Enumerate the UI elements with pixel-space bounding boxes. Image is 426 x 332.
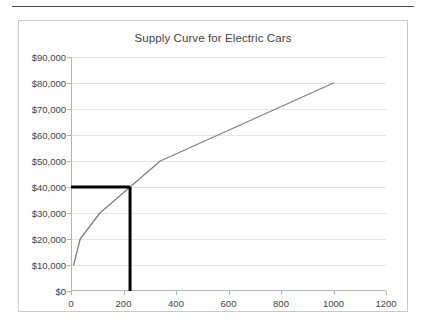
y-axis-tick-label: $90,000 — [32, 52, 66, 63]
y-axis-tick-label: $10,000 — [32, 260, 66, 271]
x-axis-tick-label: 0 — [68, 298, 73, 309]
supply-curve-line — [74, 83, 334, 265]
x-axis-tick-label: 1000 — [323, 298, 344, 309]
x-axis-tick-label: 1200 — [375, 298, 396, 309]
y-axis-tick-label: $30,000 — [32, 208, 66, 219]
x-axis-tick-mark — [124, 291, 125, 295]
y-axis-tick-label: $20,000 — [32, 234, 66, 245]
x-axis-tick-label: 400 — [168, 298, 184, 309]
y-axis-tick-label: $40,000 — [32, 182, 66, 193]
top-horizontal-rule — [12, 6, 414, 7]
x-axis-tick-mark — [386, 291, 387, 295]
y-axis-tick-label: $50,000 — [32, 156, 66, 167]
y-axis-tick-label: $60,000 — [32, 130, 66, 141]
chart-container: Supply Curve for Electric Cars $0$10,000… — [18, 20, 408, 312]
plot-area: $0$10,000$20,000$30,000$40,000$50,000$60… — [71, 57, 386, 291]
x-axis-tick-mark — [176, 291, 177, 295]
x-axis-tick-mark — [229, 291, 230, 295]
x-axis-tick-mark — [71, 291, 72, 295]
y-axis-tick-label: $70,000 — [32, 104, 66, 115]
y-axis-tick-label: $80,000 — [32, 78, 66, 89]
x-axis-tick-label: 800 — [273, 298, 289, 309]
x-axis-tick-mark — [281, 291, 282, 295]
x-axis-tick-mark — [334, 291, 335, 295]
x-axis-tick-label: 600 — [221, 298, 237, 309]
chart-title: Supply Curve for Electric Cars — [19, 32, 407, 44]
y-axis-tick-label: $0 — [55, 286, 66, 297]
x-axis-tick-label: 200 — [116, 298, 132, 309]
supply-curve-svg — [71, 57, 386, 291]
